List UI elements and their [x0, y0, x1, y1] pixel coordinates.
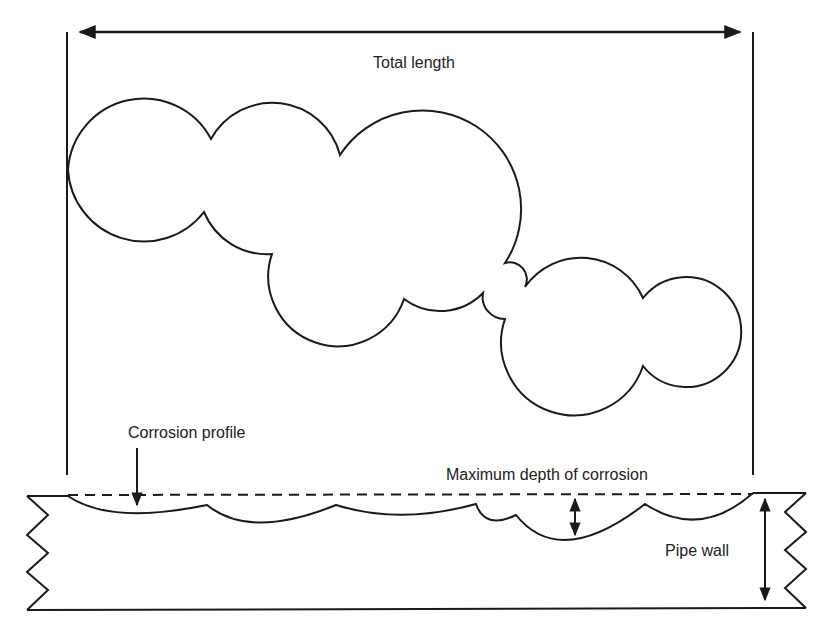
max-depth-label: Maximum depth of corrosion: [446, 467, 648, 483]
corrosion-profile-curve: [68, 493, 753, 540]
left-break-line: [27, 496, 48, 610]
total-length-label: Total length: [373, 55, 455, 71]
right-break-line: [785, 493, 806, 608]
corrosion-diagram: Total length Corrosion profile Maximum d…: [0, 0, 828, 633]
pipe-wall-label: Pipe wall: [665, 543, 729, 559]
original-surface-dashed-line: [68, 494, 753, 495]
diagram-drawing: [0, 0, 828, 633]
corrosion-profile-label: Corrosion profile: [128, 425, 245, 441]
pipe-bottom-edge: [27, 608, 806, 610]
corrosion-pit-cluster: [68, 99, 741, 416]
